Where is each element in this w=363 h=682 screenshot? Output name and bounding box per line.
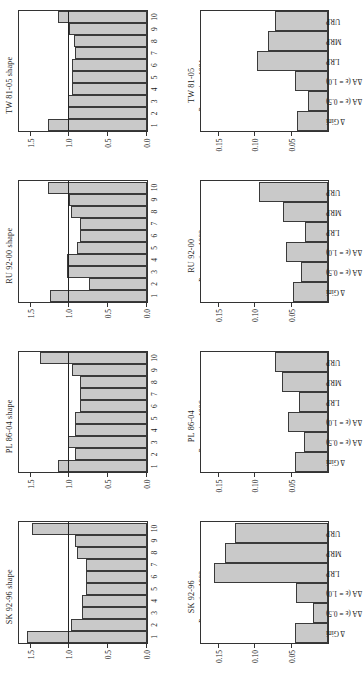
bar: [286, 242, 328, 262]
x-axis-tick-label: 5: [150, 246, 159, 250]
bar: [275, 11, 328, 31]
x-axis-category-label: ΔA (ε = 0.5): [326, 608, 362, 617]
x-axis-category-label: ΔA (ε = 1.0): [326, 588, 362, 597]
y-axis-tick: [254, 643, 255, 648]
x-axis-tick-label: 2: [150, 282, 159, 286]
x-axis-tick-label: 8: [150, 380, 159, 384]
y-axis-tick-label: 0.05: [287, 480, 296, 493]
x-axis-tick-label: 9: [150, 27, 159, 31]
y-axis-tick-label: 0.10: [251, 139, 260, 152]
y-axis-tick: [146, 302, 147, 307]
x-axis-category-label: ΔA (ε = 0.5): [326, 438, 362, 447]
bar: [259, 182, 328, 202]
y-axis-tick: [218, 643, 219, 648]
y-axis-tick-label: 1.0: [65, 309, 74, 318]
bar: [58, 11, 146, 23]
bar: [77, 547, 147, 559]
bar: [257, 51, 328, 71]
bar: [58, 460, 147, 472]
x-axis-category-label: MRP: [326, 37, 341, 46]
reference-line: [68, 11, 69, 132]
x-axis-tick-label: 6: [150, 575, 159, 579]
y-axis-tick-label: 0.10: [251, 480, 260, 493]
y-axis-tick-label: 0.15: [214, 480, 223, 493]
panel-title: TW 81-05 shape: [5, 0, 14, 171]
y-axis-tick: [291, 643, 292, 648]
x-axis-tick-label: 1: [150, 635, 159, 639]
x-axis-tick-label: 7: [150, 563, 159, 567]
y-axis-tick-label: 1.0: [65, 650, 74, 659]
plot-inner: 0.050.100.15Δ GiniΔA (ε = 0.5)ΔA (ε = 1.…: [201, 11, 329, 132]
y-axis-tick: [218, 473, 219, 478]
y-axis-tick-label: 1.0: [65, 480, 74, 489]
panel-sk-shape: SK 92-96 shape0.00.51.01.512345678910Rel…: [0, 512, 182, 682]
y-axis-tick-label: 0.05: [287, 139, 296, 152]
bar: [225, 543, 328, 563]
x-axis-tick-label: 10: [150, 525, 159, 532]
x-axis-tick-label: 8: [150, 39, 159, 43]
plot-area: 0.050.100.15Δ GiniΔA (ε = 0.5)ΔA (ε = 1.…: [200, 351, 330, 474]
y-axis-tick-label: 0.5: [103, 139, 112, 148]
x-axis-tick-label: 7: [150, 392, 159, 396]
x-axis-category-label: ΔA (ε = 1.0): [326, 418, 362, 427]
panel-ru-measures: RU 92-000.050.100.15Δ GiniΔA (ε = 0.5)ΔA…: [182, 171, 363, 342]
plot-area: 0.00.51.01.512345678910: [18, 351, 148, 474]
bar: [72, 83, 147, 95]
y-axis-tick: [107, 302, 108, 307]
bar: [32, 523, 146, 535]
x-axis-tick-label: 1: [150, 124, 159, 128]
x-axis-tick-label: 10: [150, 354, 159, 361]
reference-line: [68, 523, 69, 644]
bar: [50, 290, 147, 302]
bar: [304, 432, 328, 452]
x-axis-category-label: Δ Gini: [326, 287, 345, 296]
bar: [299, 392, 328, 412]
panel-ru-shape: RU 92-00 shape0.00.51.01.512345678910Pro…: [0, 171, 182, 342]
x-axis-category-label: Δ Gini: [326, 628, 345, 637]
x-axis-tick-label: 4: [150, 258, 159, 262]
x-axis-category-label: URP: [326, 358, 340, 367]
x-axis-tick-label: 3: [150, 441, 159, 445]
x-axis-tick-label: 3: [150, 611, 159, 615]
x-axis-category-label: MRP: [326, 548, 341, 557]
bar: [48, 182, 146, 194]
x-axis-tick-label: 6: [150, 63, 159, 67]
figure-column-ru: RU 92-00 shape0.00.51.01.512345678910Pro…: [0, 171, 363, 342]
x-axis-tick-label: 1: [150, 294, 159, 298]
y-axis-tick-label: 0.0: [142, 480, 151, 489]
bar: [295, 71, 328, 91]
y-axis-tick: [291, 473, 292, 478]
x-axis-tick-label: 8: [150, 551, 159, 555]
bar: [293, 282, 328, 302]
bar: [67, 266, 147, 278]
y-axis-tick: [254, 132, 255, 137]
bar: [68, 95, 147, 107]
x-axis-category-label: ΔA (ε = 1.0): [326, 77, 362, 86]
plot-inner: 0.050.100.15Δ GiniΔA (ε = 0.5)ΔA (ε = 1.…: [201, 352, 329, 473]
figure-column-sk: SK 92-96 shape0.00.51.01.512345678910Rel…: [0, 512, 363, 682]
bar: [288, 412, 328, 432]
bar: [71, 619, 147, 631]
y-axis-tick-label: 1.5: [26, 650, 35, 659]
x-axis-tick-label: 9: [150, 539, 159, 543]
x-axis-tick-label: 8: [150, 210, 159, 214]
y-axis-tick: [254, 302, 255, 307]
bar: [68, 436, 147, 448]
x-axis-tick-label: 5: [150, 587, 159, 591]
y-axis-tick-label: 0.10: [251, 309, 260, 322]
x-axis-category-label: Δ Gini: [326, 117, 345, 126]
y-axis-tick: [291, 132, 292, 137]
bar: [301, 262, 328, 282]
bar: [295, 623, 328, 643]
y-axis-tick-label: 0.05: [287, 650, 296, 663]
bar: [297, 111, 328, 131]
bar: [80, 218, 146, 230]
y-axis-tick: [68, 132, 69, 137]
bar: [75, 47, 146, 59]
plot-inner: 0.00.51.01.512345678910: [19, 352, 147, 473]
y-axis-tick: [291, 302, 292, 307]
x-axis-category-label: LRP: [326, 398, 339, 407]
bar: [89, 278, 147, 290]
bar: [67, 254, 147, 266]
x-axis-tick-label: 4: [150, 87, 159, 91]
